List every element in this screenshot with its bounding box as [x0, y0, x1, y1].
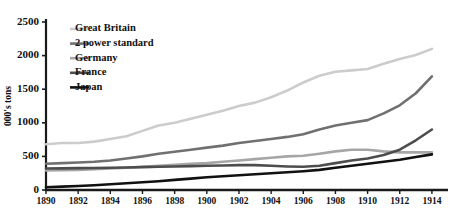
x-axis-tick-label: 1890: [37, 196, 56, 206]
x-axis-tick-label: 1894: [101, 196, 120, 206]
x-axis-tick-label: 1912: [390, 196, 409, 206]
x-axis-tick-label: 1902: [229, 196, 248, 206]
x-axis-tick-label: 1898: [165, 196, 184, 206]
x-axis-tick-label: 1914: [422, 196, 441, 206]
legend-label-2-power-standard: 2 power standard: [75, 37, 154, 48]
x-axis-tick-label: 1896: [133, 196, 152, 206]
x-axis-tick-label: 1892: [69, 196, 88, 206]
line-chart: 0500100015002000250018901892189418961898…: [0, 0, 453, 215]
x-axis-tick-label: 1908: [326, 196, 345, 206]
legend-label-great-britain: Great Britain: [75, 22, 136, 33]
y-axis-title: 000's tons: [3, 86, 13, 126]
legend-label-japan: Japan: [75, 81, 103, 92]
chart-canvas: 0500100015002000250018901892189418961898…: [0, 0, 453, 215]
legend-label-france: France: [75, 66, 107, 77]
x-axis-tick-label: 1906: [294, 196, 313, 206]
y-axis-tick-label: 2000: [17, 48, 40, 60]
x-axis-tick-label: 1900: [197, 196, 216, 206]
y-axis-tick-label: 500: [23, 149, 40, 161]
series-line-great-britain: [46, 49, 432, 144]
x-axis-tick-label: 1904: [262, 196, 281, 206]
legend-label-germany: Germany: [75, 52, 118, 63]
y-axis-tick-label: 1500: [17, 82, 40, 94]
y-axis-tick-label: 0: [34, 183, 40, 195]
x-axis-tick-label: 1910: [358, 196, 377, 206]
y-axis-tick-label: 1000: [17, 115, 40, 127]
y-axis-tick-label: 2500: [17, 15, 40, 27]
